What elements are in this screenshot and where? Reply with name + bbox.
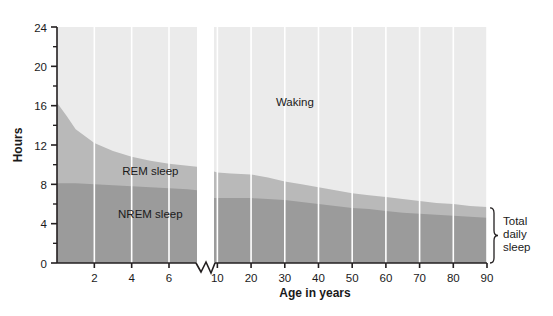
sleep-across-lifespan-chart: 04812162024246102030405060708090HoursAge… — [0, 0, 553, 316]
total-daily-sleep-label-line: sleep — [503, 241, 531, 253]
y-tick-label: 20 — [34, 61, 47, 73]
y-axis: 04812162024 — [34, 22, 57, 270]
y-tick-label: 24 — [34, 22, 47, 34]
x-tick-label: 10 — [211, 272, 224, 284]
total-daily-sleep-label-line: daily — [503, 228, 527, 240]
x-tick-label: 70 — [413, 272, 426, 284]
total-daily-sleep-annotation: Totaldailysleep — [490, 208, 531, 263]
waking-label: Waking — [276, 96, 314, 108]
nrem-sleep-label: NREM sleep — [118, 208, 183, 220]
rem-sleep-label: REM sleep — [122, 165, 178, 177]
chart-svg: 04812162024246102030405060708090HoursAge… — [0, 0, 553, 316]
x-tick-label: 2 — [91, 272, 97, 284]
x-tick-label: 80 — [447, 272, 460, 284]
x-tick-label: 4 — [128, 272, 135, 284]
curly-brace-icon — [490, 208, 498, 263]
y-tick-label: 16 — [34, 100, 47, 112]
x-axis-title: Age in years — [279, 286, 351, 300]
x-tick-label: 90 — [481, 272, 494, 284]
total-daily-sleep-label-line: Total — [503, 215, 527, 227]
x-axis: 246102030405060708090 — [91, 263, 493, 284]
axis-break-gap — [197, 27, 214, 264]
x-tick-label: 40 — [312, 272, 325, 284]
y-tick-label: 8 — [41, 179, 47, 191]
x-tick-label: 60 — [379, 272, 392, 284]
y-tick-label: 12 — [34, 140, 47, 152]
x-tick-label: 20 — [245, 272, 258, 284]
x-tick-label: 50 — [346, 272, 359, 284]
x-tick-label: 30 — [278, 272, 291, 284]
x-tick-label: 6 — [166, 272, 172, 284]
y-axis-title: Hours — [11, 127, 25, 162]
y-tick-label: 0 — [41, 258, 47, 270]
y-tick-label: 4 — [41, 218, 48, 230]
